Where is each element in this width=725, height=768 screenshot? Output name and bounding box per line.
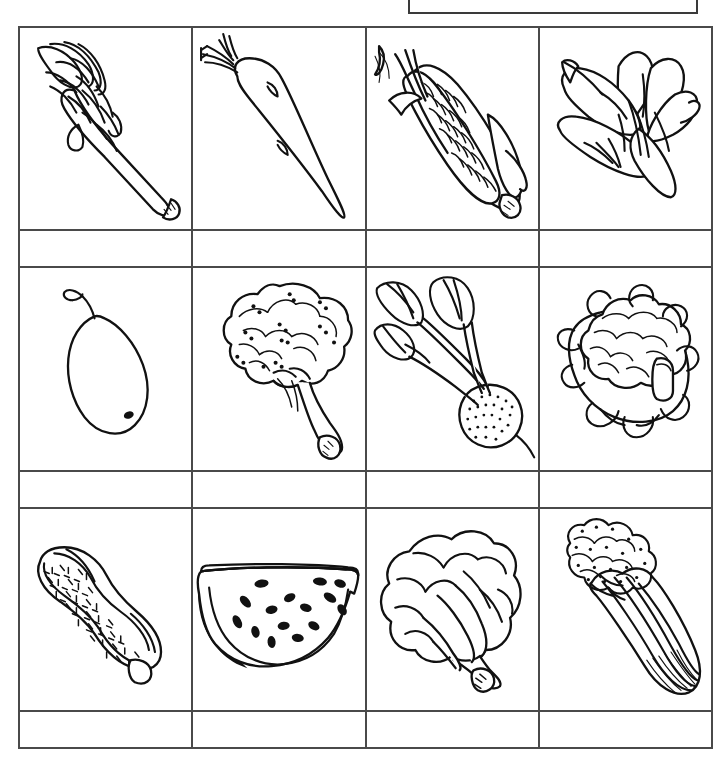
- answer-cell[interactable]: [193, 231, 366, 266]
- picture-row-3: [20, 509, 711, 712]
- picture-row-1: [20, 28, 711, 231]
- cell-carrot[interactable]: [193, 28, 366, 229]
- answer-cell[interactable]: [193, 472, 366, 507]
- asparagus-icon: [20, 28, 191, 229]
- answer-cell[interactable]: [20, 712, 193, 749]
- cell-corn[interactable]: [367, 28, 540, 229]
- cell-broccoli[interactable]: [193, 268, 366, 469]
- picture-row-2: [20, 268, 711, 471]
- watermelon-slice-icon: [193, 509, 364, 710]
- cell-pear[interactable]: [20, 268, 193, 469]
- answer-row-1: [20, 231, 711, 268]
- corn-icon: [367, 28, 538, 229]
- cell-watermelon[interactable]: [193, 509, 366, 710]
- answer-cell[interactable]: [20, 231, 193, 266]
- peanut-icon: [20, 509, 191, 710]
- picture-grid: [18, 26, 713, 749]
- answer-cell[interactable]: [367, 712, 540, 749]
- cell-celery[interactable]: [540, 509, 711, 710]
- answer-box[interactable]: [408, 0, 698, 14]
- answer-row-3: [20, 712, 711, 749]
- cell-asparagus[interactable]: [20, 28, 193, 229]
- cell-spinach[interactable]: [540, 28, 711, 229]
- cell-peanut[interactable]: [20, 509, 193, 710]
- cell-radish[interactable]: [367, 268, 540, 469]
- pear-icon: [20, 268, 191, 469]
- answer-cell[interactable]: [193, 712, 366, 749]
- worksheet-page: [0, 0, 725, 768]
- answer-row-2: [20, 472, 711, 509]
- answer-cell[interactable]: [367, 231, 540, 266]
- answer-cell[interactable]: [20, 472, 193, 507]
- carrot-icon: [193, 28, 364, 229]
- celery-icon: [540, 509, 711, 710]
- answer-cell[interactable]: [540, 472, 711, 507]
- broccoli-icon: [193, 268, 364, 469]
- answer-cell[interactable]: [540, 712, 711, 749]
- answer-cell[interactable]: [540, 231, 711, 266]
- cell-lettuce[interactable]: [367, 509, 540, 710]
- lettuce-icon: [367, 509, 538, 710]
- cell-cauliflower[interactable]: [540, 268, 711, 469]
- answer-cell[interactable]: [367, 472, 540, 507]
- spinach-leaves-icon: [540, 28, 711, 229]
- radish-icon: [367, 268, 538, 469]
- cauliflower-icon: [540, 268, 711, 469]
